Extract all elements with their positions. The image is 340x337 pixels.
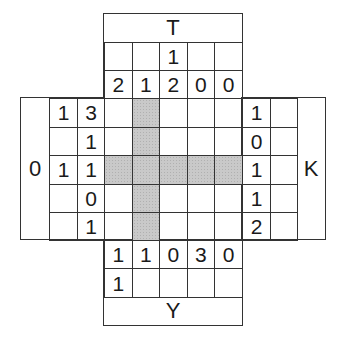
bottom-clue-cell [187,268,216,298]
grid-cell[interactable] [214,184,243,214]
top-clue-cell [132,42,161,71]
top-clue-cell: 2 [159,70,188,99]
right-clue-cell [270,212,298,241]
grid-cell[interactable] [187,212,216,241]
left-label: 0 [21,98,49,239]
bottom-clue-cell: 3 [187,240,216,269]
grid-cell[interactable] [104,155,133,185]
bottom-clue-cell: 0 [214,240,243,269]
bottom-clue-cell [214,268,243,298]
grid-cell[interactable] [132,184,161,214]
right-clue-cell: 2 [242,212,271,241]
left-clue-cell [49,127,78,157]
top-clue-cell [214,42,243,71]
right-clue-cell: 1 [242,98,271,128]
grid-cell[interactable] [104,127,133,157]
grid-cell[interactable] [214,155,243,185]
left-clue-cell: 0 [77,184,105,214]
bottom-clue-cell: 1 [104,268,133,298]
grid-cell[interactable] [159,98,188,128]
grid-cell[interactable] [159,155,188,185]
bottom-clue-cell: 1 [132,240,161,269]
grid-cell[interactable] [132,212,161,241]
left-clue-cell: 1 [77,155,105,185]
bottom-clue-cell: 1 [104,240,133,269]
grid-cell[interactable] [187,127,216,157]
right-clue-cell [270,127,298,157]
right-clue-cell [270,98,298,128]
right-clue-cell: 1 [242,184,271,214]
left-clue-cell: 1 [49,98,78,128]
bottom-clue-cell [159,268,188,298]
top-clue-cell [104,42,133,71]
top-clue-cell [187,42,216,71]
grid-cell[interactable] [187,184,216,214]
bottom-label: Y [104,297,242,325]
grid-cell[interactable] [132,98,161,128]
grid-cell[interactable] [159,127,188,157]
top-clue-cell: 1 [132,70,161,99]
left-clue-cell: 1 [77,127,105,157]
right-clue-cell [270,184,298,214]
bottom-clue-cell: 0 [159,240,188,269]
right-clue-cell: 0 [242,127,271,157]
top-clue-cell: 0 [187,70,216,99]
top-label: T [104,14,242,42]
grid-cell[interactable] [187,98,216,128]
left-clue-cell: 1 [49,155,78,185]
top-clue-cell: 1 [159,42,188,71]
grid-cell[interactable] [132,155,161,185]
top-clue-cell: 0 [214,70,243,99]
grid-cell[interactable] [214,98,243,128]
right-label: K [297,98,325,239]
grid-cell[interactable] [104,212,133,241]
right-clue-cell: 1 [242,155,271,185]
grid-cell[interactable] [187,155,216,185]
left-clue-cell: 3 [77,98,105,128]
left-clue-cell: 1 [77,212,105,241]
grid-cell[interactable] [159,212,188,241]
grid-cell[interactable] [104,184,133,214]
grid-cell[interactable] [104,98,133,128]
right-clue-cell [270,155,298,185]
bottom-clue-cell [132,268,161,298]
grid-cell[interactable] [132,127,161,157]
grid-cell[interactable] [159,184,188,214]
top-clue-cell: 2 [104,70,133,99]
grid-cell[interactable] [214,127,243,157]
left-clue-cell [49,184,78,214]
left-clue-cell [49,212,78,241]
grid-cell[interactable] [214,212,243,241]
